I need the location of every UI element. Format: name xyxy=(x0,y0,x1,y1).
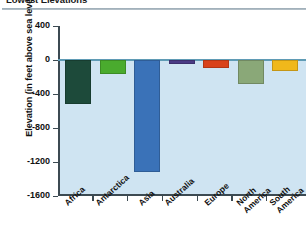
plot-area: 400 0 -400 -800 -1200 -1600 xyxy=(58,26,306,196)
x-tick xyxy=(197,196,198,201)
bar-antarctica xyxy=(100,60,126,74)
x-tick xyxy=(127,196,128,201)
title-divider xyxy=(2,8,306,10)
y-axis-line xyxy=(58,26,60,196)
y-tick-0: 400 xyxy=(53,26,58,27)
bar-europe xyxy=(203,60,229,68)
y-tick-label: 0 xyxy=(45,54,50,65)
plot-background xyxy=(58,60,306,196)
y-tick-4: -1200 xyxy=(53,162,58,163)
bar-australia xyxy=(169,60,195,64)
y-tick-3: -800 xyxy=(53,128,58,129)
y-tick-label: 400 xyxy=(35,20,50,31)
y-tick-label: -400 xyxy=(32,88,50,99)
chart-figure: Lowest Elevations Elevation (in feet abo… xyxy=(0,0,308,241)
bar-north-america xyxy=(238,60,264,84)
y-tick-label: -800 xyxy=(32,122,50,133)
y-tick-5: -1600 xyxy=(53,196,58,197)
y-tick-label: -1200 xyxy=(27,156,50,167)
bar-south-america xyxy=(272,60,298,71)
y-tick-2: -400 xyxy=(53,94,58,95)
chart-title: Lowest Elevations xyxy=(6,0,87,5)
bar-africa xyxy=(65,60,91,104)
x-tick xyxy=(231,196,232,201)
bar-asia xyxy=(134,60,160,172)
y-tick-1: 0 xyxy=(53,60,58,61)
y-tick-label: -1600 xyxy=(27,190,50,201)
